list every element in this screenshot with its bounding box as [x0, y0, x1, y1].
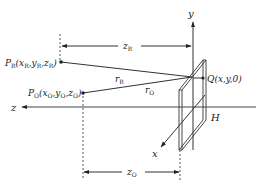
point-P-O: [81, 91, 85, 95]
plate-label-H: H: [210, 112, 220, 123]
x-axis-label: x: [152, 148, 158, 159]
label-r-R: rR: [115, 74, 124, 85]
label-z-R: zR: [122, 41, 133, 52]
label-P-R: PR(xR,yR,zR): [4, 58, 57, 69]
y-axis-label: y: [187, 8, 194, 19]
z-axis-label: z: [10, 102, 17, 113]
label-r-O: rO: [145, 85, 154, 96]
label-Q: Q(x,y,0): [207, 74, 242, 84]
ray-r-R: [61, 62, 192, 77]
ray-r-O: [83, 77, 192, 93]
label-P-O: PO(xO,yO,zO): [27, 88, 82, 99]
label-z-O: zO: [126, 167, 137, 178]
hologram-plate: [179, 60, 206, 150]
point-P-R: [59, 60, 63, 64]
holography-diagram: y z x H PR(xR,yR,zR) PO(xO,yO,zO) Q(x,y,…: [0, 0, 263, 189]
